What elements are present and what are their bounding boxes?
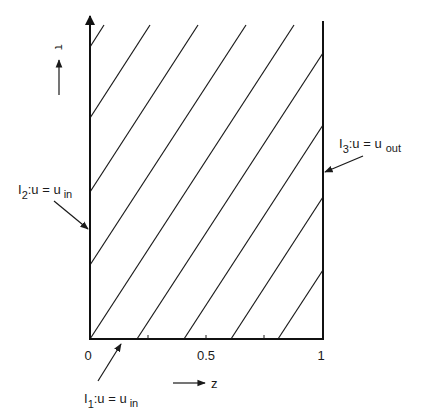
I1-condition: :u = u [94,391,127,406]
I2-pointer-arrow [54,201,88,229]
tick-label-0: 0 [84,348,91,363]
characteristics-diagram: 0 0.5 1 z τ I2:u = uin I3:u = uout I1:u … [0,0,422,417]
boundary-label-I2: I2:u = uin [18,182,88,229]
characteristic-line-2 [90,25,150,118]
characteristic-line-1 [90,25,104,47]
I2-condition: :u = u [28,182,61,197]
characteristic-line-4 [90,25,246,265]
characteristic-line-5 [90,25,294,339]
characteristic-line-6 [137,53,323,339]
characteristic-line-3 [90,25,198,192]
tick-label-0-5: 0.5 [197,348,215,363]
tick-label-1: 1 [317,348,324,363]
characteristic-lines [90,25,323,339]
characteristic-line-8 [231,197,323,339]
boundary-label-I1: I1:u = uin [84,344,138,410]
svg-text:I2:u = uin: I2:u = uin [18,182,72,201]
I2-subscript: in [64,188,73,200]
characteristic-line-7 [184,125,323,339]
I1-pointer-arrow [98,344,121,381]
boundary-label-I3: I3:u = uout [325,136,401,172]
z-axis-label: z [211,376,218,391]
I3-subscript: out [386,142,401,154]
tau-axis-label: τ [52,44,67,50]
characteristic-line-9 [278,270,323,339]
I3-condition: :u = u [349,136,382,151]
svg-text:I1:u = uin: I1:u = uin [84,391,138,410]
svg-text:I3:u = uout: I3:u = uout [339,136,401,155]
I3-pointer-arrow [325,156,363,172]
I1-subscript: in [130,397,139,409]
